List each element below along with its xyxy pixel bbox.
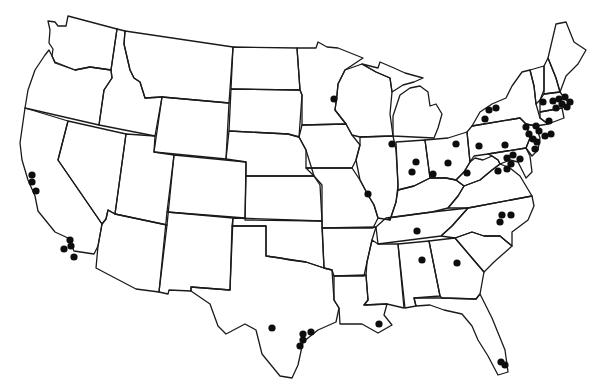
state-border-nebraska	[226, 131, 314, 176]
state-border-florida	[414, 294, 508, 375]
state-border-wyoming	[154, 97, 229, 159]
state-border-washington	[48, 16, 117, 70]
state-border-north-carolina	[441, 196, 534, 246]
location-dot	[498, 211, 505, 218]
location-dot	[388, 140, 395, 147]
location-dot	[545, 117, 552, 124]
location-dot	[28, 178, 35, 185]
state-border-utah	[115, 134, 174, 225]
state-border-missouri	[306, 168, 378, 228]
state-border-minnesota	[297, 42, 363, 125]
state-border-maine	[548, 22, 586, 92]
location-dot	[70, 253, 77, 260]
location-dot	[501, 141, 508, 148]
state-border-south-carolina	[455, 232, 512, 272]
location-dot	[408, 168, 415, 175]
location-dot	[494, 167, 501, 174]
location-dot	[429, 170, 436, 177]
state-border-iowa	[299, 124, 360, 168]
location-dot	[66, 236, 73, 243]
location-dot	[418, 256, 425, 263]
location-dot	[507, 211, 514, 218]
us-map	[0, 0, 606, 384]
state-border-south-dakota	[229, 89, 302, 137]
state-border-new-mexico	[159, 212, 233, 294]
state-border-north-dakota	[231, 47, 300, 90]
state-border-mississippi	[364, 240, 404, 308]
location-dot	[307, 328, 314, 335]
location-dot	[492, 104, 499, 111]
state-border-new-hampshire	[544, 58, 560, 94]
location-dot	[299, 336, 306, 343]
location-dot	[485, 106, 492, 113]
location-dot	[501, 361, 508, 368]
state-border-west-virginia	[456, 156, 500, 186]
state-border-montana	[124, 31, 233, 103]
state-border-kansas	[245, 176, 322, 221]
location-dot	[32, 187, 39, 194]
location-dot	[475, 142, 482, 149]
state-border-kentucky	[388, 178, 464, 220]
location-dot	[268, 324, 275, 331]
location-dot	[503, 165, 510, 172]
location-dot	[481, 115, 488, 122]
map-canvas	[0, 0, 606, 384]
location-dot	[463, 169, 470, 176]
location-dot	[552, 104, 559, 111]
state-border-texas	[191, 226, 339, 378]
location-dot	[412, 158, 419, 165]
state-border-colorado	[167, 155, 246, 218]
data-points	[28, 93, 573, 368]
location-dot	[539, 98, 546, 105]
state-border-virginia	[448, 164, 532, 208]
location-dot	[375, 320, 382, 327]
state-border-michigan-lower	[393, 86, 442, 138]
location-dot	[547, 130, 554, 137]
location-dot	[453, 259, 460, 266]
state-border-idaho	[99, 29, 162, 136]
location-dot	[364, 190, 371, 197]
location-dot	[535, 127, 542, 134]
location-dot	[60, 245, 67, 252]
location-dot	[28, 171, 35, 178]
location-dot	[330, 95, 337, 102]
location-dot	[496, 218, 503, 225]
location-dot	[67, 242, 74, 249]
location-dot	[533, 138, 540, 145]
location-dot	[452, 140, 459, 147]
state-border-illinois	[356, 136, 398, 220]
location-dot	[563, 103, 570, 110]
state-borders	[20, 16, 586, 378]
state-border-georgia	[429, 238, 484, 299]
state-border-indiana	[396, 140, 430, 190]
location-dot	[522, 123, 529, 130]
state-border-arkansas	[322, 227, 376, 276]
location-dot	[531, 145, 538, 152]
location-dot	[516, 155, 523, 162]
state-border-arizona	[96, 210, 167, 292]
location-dot	[509, 151, 516, 158]
state-border-oregon	[25, 50, 112, 125]
location-dot	[413, 227, 420, 234]
location-dot	[444, 159, 451, 166]
